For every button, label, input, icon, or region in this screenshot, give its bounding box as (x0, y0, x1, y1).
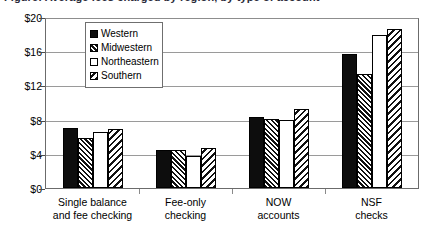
legend-swatch-icon (90, 72, 98, 80)
bar-southern-1[interactable] (201, 148, 216, 188)
bar-group (325, 19, 418, 188)
legend-item-label: Northeastern (101, 57, 159, 67)
x-axis-category-line: and fee checking (46, 209, 139, 222)
legend-item-southern[interactable]: Southern (90, 69, 157, 83)
x-axis-category-line: Single balance (46, 196, 139, 209)
bar-western-1[interactable] (156, 150, 171, 188)
x-axis-category-line: checking (139, 209, 232, 222)
bar-midwestern-0[interactable] (78, 138, 93, 188)
clipped-figure-title-text: Figure: Average fees charged by region, … (4, 0, 320, 3)
bar-southern-2[interactable] (294, 109, 309, 188)
bar-northeastern-1[interactable] (186, 156, 201, 188)
x-axis-category-label: NOWaccounts (232, 196, 325, 221)
chart-legend[interactable]: WesternMidwesternNortheasternSouthern (85, 22, 163, 88)
bar-western-3[interactable] (342, 54, 357, 188)
x-axis-separator (325, 189, 326, 194)
legend-item-western[interactable]: Western (90, 27, 157, 41)
x-axis-category-label: NSFchecks (325, 196, 418, 221)
bar-southern-0[interactable] (108, 129, 123, 188)
x-axis-separator (232, 189, 233, 194)
x-axis-category-line: NSF (325, 196, 418, 209)
legend-swatch-icon (90, 44, 98, 52)
clipped-figure-title: Figure: Average fees charged by region, … (0, 0, 428, 6)
bar-chart: Figure: Average fees charged by region, … (0, 0, 428, 239)
legend-swatch-icon (90, 58, 98, 66)
x-axis-category-label: Single balanceand fee checking (46, 196, 139, 221)
legend-item-label: Western (101, 29, 138, 39)
bar-northeastern-3[interactable] (372, 35, 387, 188)
bar-western-0[interactable] (63, 128, 78, 188)
legend-item-label: Midwestern (101, 43, 152, 53)
x-axis-separator (139, 189, 140, 194)
legend-item-northeastern[interactable]: Northeastern (90, 55, 157, 69)
legend-item-midwestern[interactable]: Midwestern (90, 41, 157, 55)
bar-midwestern-3[interactable] (357, 74, 372, 188)
bar-southern-3[interactable] (387, 29, 402, 188)
x-axis-category-line: accounts (232, 209, 325, 222)
bar-midwestern-2[interactable] (264, 119, 279, 188)
x-axis-category-line: Fee-only (139, 196, 232, 209)
x-axis-category-line: NOW (232, 196, 325, 209)
legend-item-label: Southern (101, 71, 142, 81)
y-axis-tick-mark (39, 189, 45, 190)
legend-swatch-icon (90, 30, 98, 38)
bar-northeastern-0[interactable] (93, 132, 108, 188)
x-axis-category-label: Fee-onlychecking (139, 196, 232, 221)
x-axis-category-line: checks (325, 209, 418, 222)
bar-northeastern-2[interactable] (279, 120, 294, 188)
bar-group (232, 19, 325, 188)
bar-western-2[interactable] (249, 117, 264, 188)
x-axis-labels: Single balanceand fee checkingFee-onlych… (46, 196, 418, 221)
bar-midwestern-1[interactable] (171, 150, 186, 188)
